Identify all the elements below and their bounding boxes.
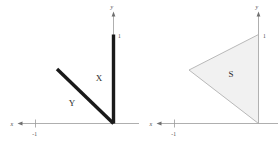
- y-axis-label: y: [110, 4, 114, 10]
- segment-y-label: Y: [69, 98, 76, 108]
- segment-x-label: X: [96, 73, 103, 83]
- y-axis-label: y: [255, 4, 259, 10]
- x-axis-arrow-icon: [18, 122, 23, 126]
- y-axis-arrow-icon: [112, 12, 116, 17]
- region-s-label: S: [228, 69, 233, 79]
- region-s: [189, 35, 259, 124]
- segment-y: [57, 69, 114, 124]
- y-tick-label: 1: [118, 33, 121, 39]
- vectors-panel: x -1 y 1 X Y: [0, 0, 139, 147]
- x-tick-label: -1: [32, 131, 37, 137]
- region-panel: x -1 y 1 S: [139, 0, 278, 147]
- x-axis-label: x: [149, 121, 153, 127]
- x-axis-label: x: [10, 121, 14, 127]
- figure-root: x -1 y 1 X Y x -1 y 1 S: [0, 0, 278, 147]
- x-axis-arrow-icon: [157, 122, 162, 126]
- x-tick-label: -1: [171, 131, 176, 137]
- y-tick-label: 1: [263, 33, 266, 39]
- y-axis-arrow-icon: [257, 12, 261, 17]
